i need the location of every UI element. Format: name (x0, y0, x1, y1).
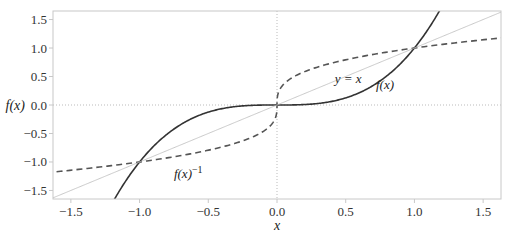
y-tick-label: 1.0 (31, 41, 47, 56)
x-tick-label: −1.0 (128, 204, 152, 219)
annotations: y = xf(x)f(x)−1 (174, 71, 394, 181)
x-tick-label: −0.5 (196, 204, 220, 219)
x-tick-label: 0.5 (338, 204, 354, 219)
y-tick-label: −0.5 (23, 126, 47, 141)
x-axis-ticks: −1.5−1.0−0.50.00.51.01.5 (59, 199, 491, 219)
annotation-label: y = x (333, 71, 362, 86)
x-tick-label: 1.5 (475, 204, 491, 219)
y-axis-ticks: 1.51.00.50.0−0.5−1.0−1.5 (23, 12, 53, 198)
x-tick-label: −1.5 (59, 204, 83, 219)
y-tick-label: 0.0 (31, 98, 47, 113)
annotation-label: f(x)−1 (174, 164, 203, 181)
x-axis-label: x (273, 218, 281, 233)
x-tick-label: 1.0 (406, 204, 422, 219)
y-axis-label: f(x) (6, 98, 26, 114)
chart: −1.5−1.0−0.50.00.51.01.5 1.51.00.50.0−0.… (0, 0, 507, 239)
y-tick-label: −1.0 (23, 154, 47, 169)
y-tick-label: −1.5 (23, 183, 47, 198)
x-tick-label: 0.0 (269, 204, 285, 219)
y-tick-label: 1.5 (31, 12, 47, 27)
y-tick-label: 0.5 (31, 69, 47, 84)
annotation-label: f(x) (376, 77, 394, 92)
